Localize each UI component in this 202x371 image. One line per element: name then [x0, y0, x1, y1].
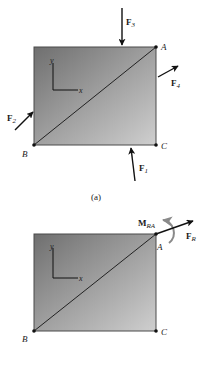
caption-a: (a) [91, 192, 101, 202]
force-f4: F4 [158, 66, 181, 90]
force-f2: F2 [7, 112, 33, 130]
force-f2-label: F2 [7, 113, 17, 125]
label-b: B [22, 334, 28, 344]
label-a: A [160, 42, 167, 52]
label-c: C [161, 327, 168, 337]
point-a [154, 45, 158, 49]
point-c [154, 329, 158, 333]
point-b [32, 329, 36, 333]
force-f1-label: F1 [139, 163, 148, 175]
force-f2-arrow [15, 112, 33, 130]
x-axis-label: x [78, 274, 83, 283]
y-axis-label: y [49, 242, 54, 251]
force-f4-label: F4 [171, 78, 181, 90]
force-f3-label: F3 [126, 17, 136, 29]
label-a: A [156, 242, 163, 252]
label-b: B [22, 149, 28, 159]
x-axis-label: x [78, 86, 83, 95]
y-axis-label: y [49, 56, 54, 65]
force-f3: F3 [122, 8, 136, 45]
diagram-b: y x A B C MRA FR [22, 218, 197, 344]
figure-canvas: y x A B C F3 F4 F2 F1 (a) [0, 0, 202, 371]
label-c: C [161, 141, 168, 151]
point-c [154, 143, 158, 147]
force-f1-arrow [131, 148, 135, 181]
moment-label: MRA [138, 218, 156, 230]
resultant-force-label: FR [186, 231, 197, 243]
point-b [32, 143, 36, 147]
diagram-a: y x A B C F3 F4 F2 F1 [7, 8, 181, 181]
force-f1: F1 [131, 148, 148, 181]
resultant-force: FR [156, 221, 197, 243]
force-f4-arrow [158, 66, 178, 77]
